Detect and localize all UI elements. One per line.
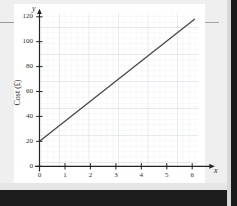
page-edge-bottom <box>0 190 237 206</box>
x-axis-symbol: x <box>214 166 218 175</box>
page-edge-bottom-fade <box>0 183 231 190</box>
x-tick-label-0: 0 <box>34 171 46 179</box>
page-edge-right <box>231 0 237 206</box>
page-canvas: y x 0 20 40 60 80 100 120 0 1 2 3 4 5 6 … <box>0 0 237 206</box>
y-tick-label-120: 120 <box>13 12 33 20</box>
y-tick-label-20: 20 <box>13 137 33 145</box>
x-tick-label-6: 6 <box>186 171 198 179</box>
y-tick-label-100: 100 <box>13 37 33 45</box>
x-tick-label-1: 1 <box>59 171 71 179</box>
y-tick-label-0: 0 <box>13 162 33 170</box>
x-tick-label-5: 5 <box>161 171 173 179</box>
x-tick-label-2: 2 <box>84 171 96 179</box>
x-tick-label-3: 3 <box>110 171 122 179</box>
plot-grid <box>40 13 199 166</box>
y-axis-title: Cost (£) <box>13 67 22 119</box>
x-tick-label-4: 4 <box>135 171 147 179</box>
